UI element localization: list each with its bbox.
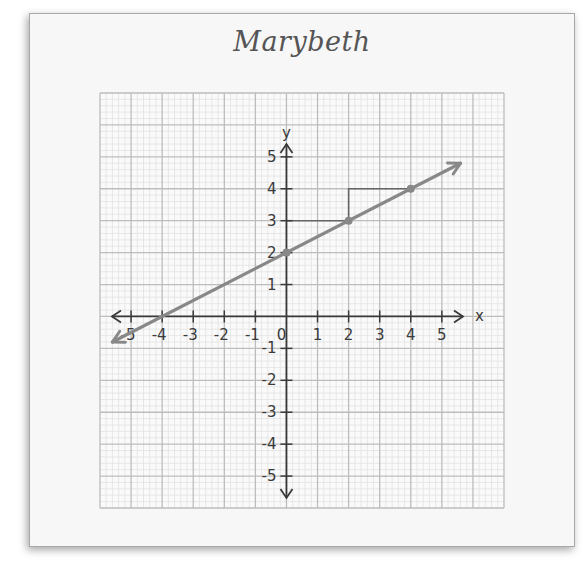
x-tick-label: 4 — [406, 326, 416, 344]
y-tick-label: 3 — [267, 212, 277, 230]
y-axis-label: y — [282, 124, 291, 142]
x-tick-label: 0 — [277, 326, 287, 344]
y-tick-label: -4 — [261, 435, 276, 453]
y-tick-label: -2 — [261, 371, 276, 389]
coordinate-plane: -5-4-3-2-1012345-5-4-3-2-112345xy — [0, 0, 584, 565]
data-point — [345, 217, 353, 225]
x-tick-label: -1 — [245, 326, 260, 344]
x-tick-label: 1 — [313, 326, 323, 344]
y-tick-label: -1 — [261, 339, 276, 357]
x-tick-label: -4 — [152, 326, 167, 344]
y-tick-label: 1 — [267, 276, 277, 294]
grid — [100, 93, 504, 508]
grid-background — [100, 93, 504, 508]
y-tick-label: 5 — [267, 148, 277, 166]
x-tick-label: 2 — [344, 326, 354, 344]
y-tick-label: 4 — [267, 180, 277, 198]
y-tick-label: -3 — [261, 403, 276, 421]
x-axis-label: x — [475, 307, 484, 325]
data-point — [407, 185, 415, 193]
y-tick-label: -5 — [261, 467, 276, 485]
x-tick-label: 3 — [375, 326, 385, 344]
x-tick-label: -2 — [214, 326, 229, 344]
data-point — [282, 249, 290, 257]
x-tick-label: 5 — [437, 326, 447, 344]
x-tick-label: -3 — [183, 326, 198, 344]
